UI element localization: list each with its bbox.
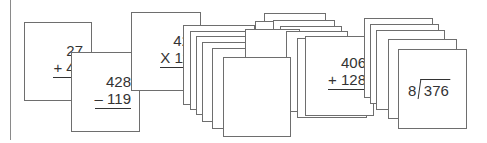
- top-number: 428: [95, 73, 131, 90]
- flash-card-division-8-376: 8 376: [398, 49, 467, 129]
- division-bracket: 376: [418, 79, 451, 99]
- problem: 406 + 128: [328, 54, 366, 90]
- operator-line: + 128: [328, 71, 366, 90]
- blank-card: [223, 57, 291, 137]
- flash-card-subtraction-428-119: 428 – 119: [71, 52, 140, 132]
- problem: 428 – 119: [95, 73, 131, 109]
- page-margin-line: [10, 0, 11, 140]
- dividend: 376: [424, 82, 449, 99]
- operator-line: – 119: [95, 90, 131, 109]
- top-number: 406: [328, 54, 366, 71]
- divisor: 8: [408, 82, 416, 99]
- long-division: 8 376: [408, 79, 449, 99]
